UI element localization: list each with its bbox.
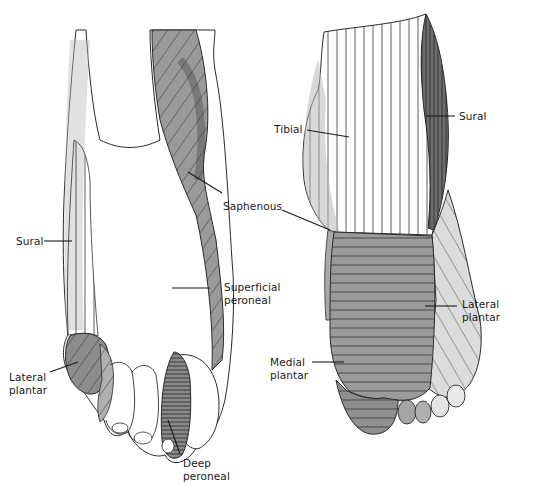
diagram-canvas — [0, 0, 535, 487]
label-plantar-medial-plantar: Medial plantar — [270, 356, 308, 381]
foot-nerve-diagram: Sural Saphenous Superficial peroneal Lat… — [0, 0, 535, 487]
label-dorsal-lateral-plantar: Lateral plantar — [9, 371, 47, 396]
label-text: plantar — [270, 369, 308, 382]
label-text: Lateral — [9, 371, 47, 384]
dorsal-foot-view — [63, 30, 233, 463]
label-dorsal-saphenous: Saphenous — [223, 200, 282, 213]
label-plantar-lateral-plantar: Lateral plantar — [462, 298, 500, 323]
label-text: Lateral — [462, 298, 500, 311]
label-text: peroneal — [224, 294, 281, 307]
label-plantar-tibial: Tibial — [274, 123, 303, 136]
label-text: plantar — [462, 311, 500, 324]
label-text: plantar — [9, 384, 47, 397]
label-dorsal-deep-peroneal: Deep peroneal — [183, 457, 230, 482]
label-text: Superficial — [224, 281, 281, 294]
label-dorsal-superficial-peroneal: Superficial peroneal — [224, 281, 281, 306]
label-text: Sural — [16, 235, 44, 248]
plantar-foot-view — [303, 14, 481, 434]
label-dorsal-sural: Sural — [16, 235, 44, 248]
label-text: peroneal — [183, 470, 230, 483]
label-text: Deep — [183, 457, 230, 470]
label-text: Tibial — [274, 123, 303, 136]
label-plantar-sural: Sural — [459, 110, 487, 123]
label-text: Saphenous — [223, 200, 282, 213]
label-text: Sural — [459, 110, 487, 123]
label-text: Medial — [270, 356, 308, 369]
